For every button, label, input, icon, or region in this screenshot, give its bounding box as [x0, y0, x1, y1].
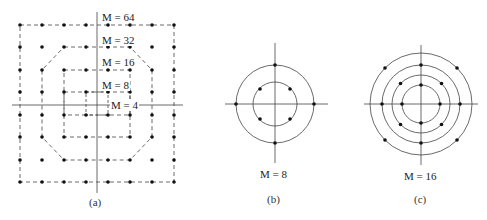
label-m8: M = 8 — [101, 79, 130, 91]
label-m32: M = 32 — [101, 34, 135, 46]
label-m16: M = 16 — [101, 56, 135, 68]
caption-b: (b) — [267, 193, 280, 205]
constellation-diagrams — [0, 0, 487, 220]
panel-a-graph — [12, 12, 183, 193]
figure: M = 64 M = 32 M = 16 M = 8 M = 4 (a) M =… — [0, 0, 487, 220]
label-b-m8: M = 8 — [259, 168, 288, 180]
label-m64: M = 64 — [101, 11, 135, 23]
label-c-m16: M = 16 — [403, 170, 437, 182]
caption-a: (a) — [89, 196, 101, 208]
label-m4: M = 4 — [110, 99, 139, 111]
caption-c: (c) — [414, 193, 426, 205]
